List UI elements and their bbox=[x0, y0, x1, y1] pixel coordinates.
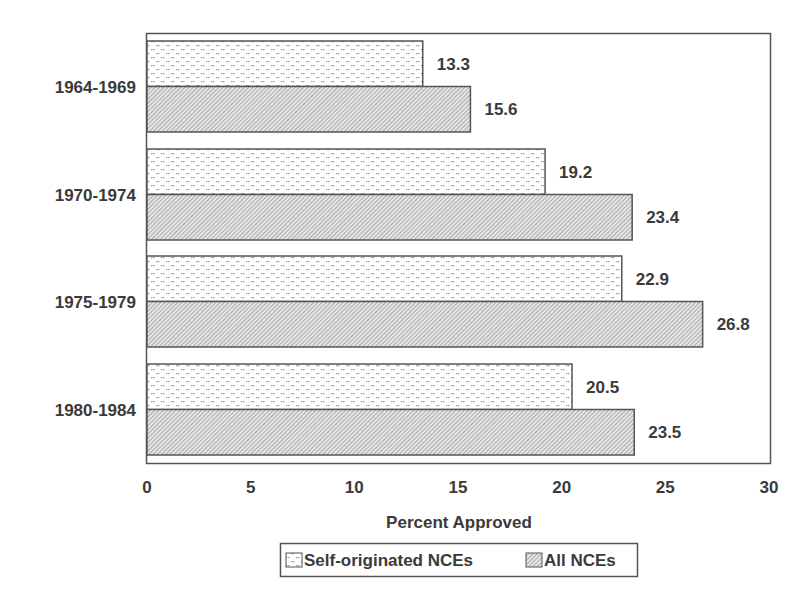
legend-label-all: All NCEs bbox=[544, 551, 616, 570]
x-tick-label: 0 bbox=[142, 478, 151, 497]
bar-all-1964-1969 bbox=[147, 87, 470, 133]
legend-swatch-self-originated bbox=[286, 553, 302, 567]
value-label: 23.4 bbox=[646, 208, 680, 227]
value-label: 19.2 bbox=[559, 163, 592, 182]
bar-self-originated-1964-1969 bbox=[147, 41, 423, 87]
bar-all-1980-1984 bbox=[147, 410, 634, 456]
x-tick-label: 30 bbox=[760, 478, 779, 497]
bar-self-originated-1970-1974 bbox=[147, 149, 545, 195]
legend-label-self-originated: Self-originated NCEs bbox=[304, 551, 473, 570]
bar-all-1975-1979 bbox=[147, 302, 703, 348]
x-axis-title: Percent Approved bbox=[386, 513, 532, 532]
value-label: 23.5 bbox=[648, 423, 681, 442]
category-labels: 1964-19691970-19741975-19791980-1984 bbox=[55, 78, 137, 420]
bar-chart: 1964-19691970-19741975-19791980-1984 13.… bbox=[0, 0, 809, 607]
value-label: 22.9 bbox=[636, 270, 669, 289]
bar-self-originated-1975-1979 bbox=[147, 256, 622, 302]
bar-all-1970-1974 bbox=[147, 195, 632, 241]
x-tick-label: 10 bbox=[345, 478, 364, 497]
x-tick-label: 15 bbox=[449, 478, 468, 497]
category-label: 1980-1984 bbox=[55, 401, 137, 420]
category-label: 1975-1979 bbox=[55, 293, 136, 312]
x-axis-ticks: 051015202530 bbox=[142, 478, 778, 497]
value-label: 20.5 bbox=[586, 378, 619, 397]
value-label: 15.6 bbox=[484, 100, 517, 119]
category-label: 1970-1974 bbox=[55, 186, 137, 205]
bar-self-originated-1980-1984 bbox=[147, 364, 572, 410]
x-tick-label: 20 bbox=[552, 478, 571, 497]
value-label: 13.3 bbox=[437, 55, 470, 74]
value-label: 26.8 bbox=[717, 315, 750, 334]
category-label: 1964-1969 bbox=[55, 78, 136, 97]
x-tick-label: 25 bbox=[656, 478, 675, 497]
legend: Self-originated NCEs All NCEs bbox=[281, 544, 638, 577]
x-tick-label: 5 bbox=[246, 478, 255, 497]
legend-swatch-all bbox=[526, 553, 542, 567]
